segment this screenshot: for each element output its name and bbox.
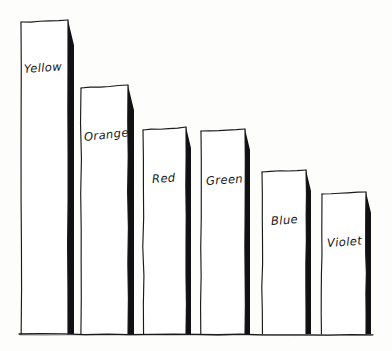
- bar-label-yellow: Yellow: [24, 59, 63, 76]
- bar-face: [201, 129, 245, 334]
- bar-label-red: Red: [152, 170, 176, 186]
- bar-face: [143, 127, 186, 334]
- bar-blue: [262, 170, 311, 334]
- bar-violet: [321, 192, 371, 334]
- bar-label-green: Green: [206, 171, 244, 188]
- bar-shadow: [366, 192, 371, 334]
- bar-orange: [81, 85, 134, 334]
- bar-face: [322, 192, 366, 334]
- bar-red: [143, 127, 191, 334]
- bar-label-violet: Violet: [327, 234, 363, 250]
- hand-drawn-bar-chart: Yellow Orange Red Green Blue Violet: [0, 0, 392, 351]
- chart-canvas: [0, 0, 392, 351]
- bar-shadow: [68, 20, 74, 334]
- bar-label-blue: Blue: [271, 212, 299, 228]
- bar-face: [81, 85, 128, 334]
- bar-green: [201, 129, 250, 334]
- bar-face: [262, 170, 306, 334]
